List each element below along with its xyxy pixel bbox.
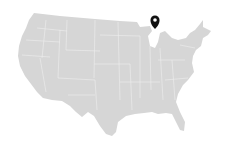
us-map[interactable]: [0, 0, 225, 143]
us-silhouette: [18, 13, 211, 136]
map-pin-icon: [151, 16, 160, 30]
location-marker[interactable]: [151, 16, 160, 30]
pin-hole: [153, 18, 157, 22]
